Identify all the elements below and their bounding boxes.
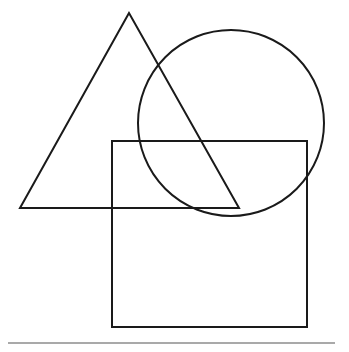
diagram-canvas [0,0,349,352]
rectangle-shape [112,141,307,327]
circle-shape [138,30,324,216]
triangle-shape [20,13,239,208]
